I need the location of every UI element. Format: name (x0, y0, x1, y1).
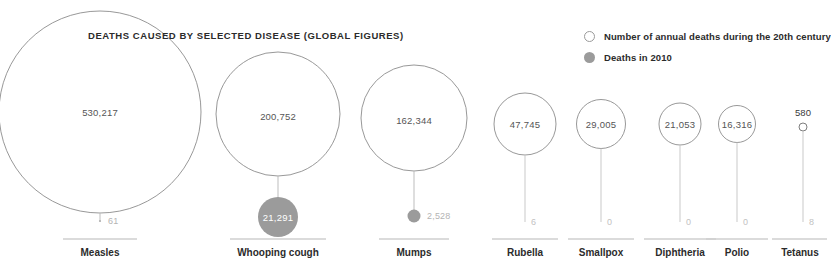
legend-item-century: Number of annual deaths during the 20th … (584, 26, 824, 47)
century-value-rubella: 47,745 (510, 119, 540, 130)
recent-value-rubella: 6 (531, 217, 536, 227)
column-label-rubella: Rubella (507, 247, 543, 258)
century-value-whooping-cough: 200,752 (260, 111, 296, 122)
column-label-polio: Polio (725, 247, 749, 258)
century-value-polio: 16,316 (722, 119, 752, 130)
recent-value-diphtheria: 0 (686, 217, 691, 227)
column-graphic-mumps (361, 65, 467, 223)
column-label-measles: Measles (81, 247, 120, 258)
column-label-whooping-cough: Whooping cough (237, 247, 319, 258)
recent-value-measles: 61 (108, 216, 118, 226)
recent-value-whooping-cough: 21,291 (263, 212, 293, 223)
column-label-mumps: Mumps (397, 247, 432, 258)
recent-value-smallpox: 0 (607, 217, 612, 227)
recent-value-tetanus: 8 (809, 217, 814, 227)
column-graphic-tetanus (799, 123, 807, 222)
century-value-mumps: 162,344 (396, 115, 432, 126)
legend-label-recent: Deaths in 2010 (604, 52, 672, 63)
century-value-measles: 530,217 (82, 107, 118, 118)
column-graphic-whooping-cough (216, 52, 340, 237)
column-label-diphtheria: Diphtheria (655, 247, 704, 258)
legend-item-recent: Deaths in 2010 (584, 47, 824, 68)
column-graphic-rubella (494, 93, 556, 222)
column-label-smallpox: Smallpox (579, 247, 623, 258)
recent-value-mumps: 2,528 (427, 211, 451, 221)
column-label-tetanus: Tetanus (781, 247, 819, 258)
century-value-tetanus: 580 (795, 107, 811, 118)
recent-value-polio: 0 (743, 217, 748, 227)
filled-circle-icon (584, 52, 595, 63)
century-value-diphtheria: 21,053 (665, 119, 695, 130)
legend: Number of annual deaths during the 20th … (584, 26, 824, 68)
open-circle-icon (584, 31, 595, 42)
century-value-smallpox: 29,005 (586, 119, 616, 130)
legend-label-century: Number of annual deaths during the 20th … (604, 31, 831, 42)
page-title: DEATHS CAUSED BY SELECTED DISEASE (GLOBA… (88, 30, 404, 41)
